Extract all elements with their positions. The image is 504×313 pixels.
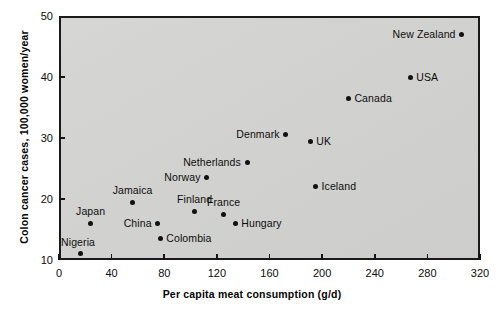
- y-tick-20: [59, 198, 65, 200]
- data-point-label: UK: [316, 136, 331, 147]
- data-point-label: New Zealand: [393, 29, 456, 40]
- x-tick-label-120: 120: [208, 267, 226, 279]
- data-point-label: USA: [416, 72, 438, 83]
- data-point-label: Nigeria: [61, 237, 95, 248]
- x-tick-40: [111, 254, 113, 260]
- y-tick-label-10: 10: [27, 254, 53, 266]
- x-tick-label-280: 280: [418, 267, 436, 279]
- data-point-label: Canada: [354, 93, 391, 104]
- y-tick-40: [59, 76, 65, 78]
- x-tick-80: [163, 254, 165, 260]
- data-point-marker: [408, 75, 413, 80]
- x-tick-label-80: 80: [158, 267, 170, 279]
- x-tick-label-40: 40: [106, 267, 118, 279]
- data-point-marker: [459, 32, 464, 37]
- data-point-label: China: [124, 218, 152, 229]
- data-point-marker: [245, 160, 250, 165]
- data-point-label: Jamaica: [113, 185, 153, 196]
- x-tick-200: [321, 254, 323, 260]
- x-tick-320: [479, 254, 481, 260]
- data-point-marker: [192, 209, 197, 214]
- data-point-marker: [308, 139, 313, 144]
- data-point-label: France: [207, 197, 240, 208]
- x-tick-label-320: 320: [471, 267, 489, 279]
- x-tick-label-0: 0: [56, 267, 62, 279]
- data-point-marker: [221, 212, 226, 217]
- x-tick-label-240: 240: [366, 267, 384, 279]
- data-point-label: Japan: [76, 206, 105, 217]
- data-point-marker: [158, 236, 163, 241]
- y-tick-30: [59, 137, 65, 139]
- x-axis-label: Per capita meat consumption (g/d): [0, 288, 504, 300]
- y-tick-label-30: 30: [27, 132, 53, 144]
- data-point-label: Norway: [164, 172, 200, 183]
- x-tick-label-200: 200: [313, 267, 331, 279]
- x-tick-160: [269, 254, 271, 260]
- x-tick-0: [58, 254, 60, 260]
- y-tick-label-20: 20: [27, 193, 53, 205]
- x-tick-240: [374, 254, 376, 260]
- x-tick-280: [427, 254, 429, 260]
- data-point-label: Denmark: [236, 129, 279, 140]
- y-tick-label-40: 40: [27, 71, 53, 83]
- data-point-marker: [130, 200, 135, 205]
- y-axis-label: Colon cancer cases, 100,000 women/year: [18, 17, 30, 257]
- y-tick-label-50: 50: [27, 10, 53, 22]
- scatter-plot-figure: NigeriaJapanJamaicaChinaColombiaFinlandN…: [0, 0, 504, 313]
- data-point-marker: [204, 175, 209, 180]
- data-point-marker: [233, 221, 238, 226]
- data-point-label: Colombia: [166, 233, 211, 244]
- data-point-marker: [346, 96, 351, 101]
- data-point-marker: [88, 221, 93, 226]
- data-point-label: Iceland: [322, 181, 357, 192]
- x-tick-label-160: 160: [260, 267, 278, 279]
- x-tick-120: [216, 254, 218, 260]
- data-point-label: Hungary: [241, 218, 281, 229]
- data-point-label: Netherlands: [183, 157, 241, 168]
